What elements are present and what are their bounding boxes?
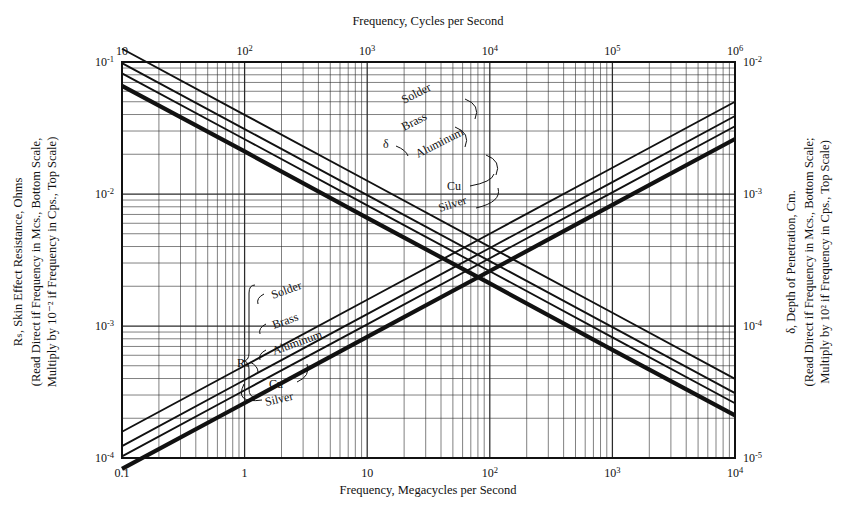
bottom-tick-1: 1 xyxy=(242,466,248,480)
label-delta-symbol: δ xyxy=(383,137,389,151)
right-axis-title-line1: δ, Depth of Penetration, Cm. xyxy=(784,190,798,334)
bottom-tick-0: 0.1 xyxy=(115,466,130,480)
left-axis-title-line3: Multiply by 10⁻² if Frequency in Cps., T… xyxy=(45,137,59,388)
label-rs-cu: Cu xyxy=(269,377,283,391)
left-axis-title-line1: Rₛ, Skin Effect Resistance, Ohms xyxy=(11,178,25,347)
right-axis-title-line3: Multiply by 10² if Frequency in Cps., To… xyxy=(818,140,832,384)
chart-figure: 101021031041051060.111010210310410-110-2… xyxy=(0,0,857,511)
top-axis-title: Frequency, Cycles per Second xyxy=(352,14,504,28)
top-tick-0: 10 xyxy=(116,44,128,58)
label-delta-cu: Cu xyxy=(447,179,461,193)
left-axis-title-line2: (Read Direct if Frequency in Mcs., Botto… xyxy=(29,138,43,387)
skin-effect-nomograph-svg: 101021031041051060.111010210310410-110-2… xyxy=(0,0,857,511)
bottom-axis-title: Frequency, Megacycles per Second xyxy=(340,483,518,497)
right-axis-title-line2: (Read Direct if Frequency in Mcs., Botto… xyxy=(802,138,816,387)
bottom-tick-2: 10 xyxy=(361,466,373,480)
